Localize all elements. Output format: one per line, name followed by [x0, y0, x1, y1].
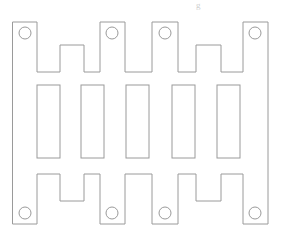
hole-bottom-left — [19, 207, 31, 219]
drawing-canvas: g — [0, 0, 281, 235]
hole-bottom-right — [249, 207, 261, 219]
part-outline-drawing — [0, 0, 281, 235]
hole-bottom-mid-right — [159, 207, 171, 219]
hole-bottom-mid-left — [106, 207, 118, 219]
slot-2 — [81, 85, 104, 158]
slot-3 — [126, 85, 149, 158]
slot-4 — [172, 85, 195, 158]
hole-top-left — [19, 27, 31, 39]
slot-1 — [37, 85, 60, 158]
hole-top-mid-left — [106, 27, 118, 39]
hole-top-right — [249, 27, 261, 39]
slot-5 — [217, 85, 240, 158]
hole-top-mid-right — [159, 27, 171, 39]
